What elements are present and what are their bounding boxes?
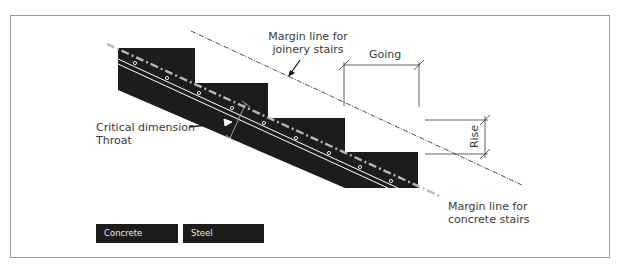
joinery-margin-label-line2: joinery stairs [268, 43, 348, 56]
concrete-margin-label-line2: concrete stairs [448, 213, 530, 226]
critical-dimension-text: Critical dimension [96, 121, 195, 134]
concrete-margin-label: Margin line for concrete stairs [448, 200, 530, 226]
rise-label: Rise [468, 125, 481, 148]
legend-concrete: Concrete [96, 224, 178, 243]
legend-steel: Steel [183, 224, 264, 243]
going-label: Going [369, 48, 401, 61]
concrete-margin-label-line1: Margin line for [448, 200, 530, 213]
joinery-label-arrow [288, 60, 300, 77]
critical-dimension-label: Critical dimension Throat [96, 121, 195, 147]
joinery-margin-label-line1: Margin line for [268, 30, 348, 43]
throat-text: Throat [96, 134, 195, 147]
going-dimension [339, 60, 424, 107]
joinery-margin-label: Margin line for joinery stairs [268, 30, 348, 56]
